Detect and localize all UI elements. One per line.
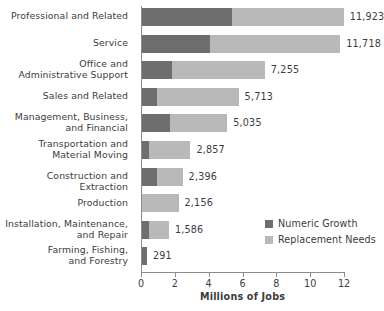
- category-label-line: Construction and Extraction: [0, 170, 128, 192]
- category-axis-labels: Professional and RelatedServiceOffice an…: [0, 0, 134, 272]
- bar-segment-replacement-needs[interactable]: [142, 194, 179, 212]
- category-label: Transportation andMaterial Moving: [0, 138, 128, 160]
- x-axis-tick-label: 8: [273, 278, 279, 289]
- bar-value-label: 2,156: [185, 197, 213, 208]
- legend-label: Replacement Needs: [278, 234, 376, 245]
- bar-segment-replacement-needs[interactable]: [170, 114, 227, 132]
- x-axis-tick-label: 12: [338, 278, 350, 289]
- category-label-line: Service: [0, 37, 128, 48]
- bar-value-label: 2,857: [196, 144, 224, 155]
- bar-value-label: 7,255: [271, 64, 299, 75]
- category-label: Service: [0, 37, 128, 48]
- x-axis-tick: [243, 272, 244, 277]
- category-label: Management, Business,and Financial: [0, 111, 128, 133]
- category-label: Construction and Extraction: [0, 170, 128, 192]
- bar-segment-replacement-needs[interactable]: [172, 61, 265, 79]
- bar-segment-numeric-growth[interactable]: [142, 8, 232, 26]
- bar-segment-numeric-growth[interactable]: [142, 114, 170, 132]
- x-axis-tick-label: 10: [304, 278, 316, 289]
- x-axis-tick-label: 6: [239, 278, 245, 289]
- category-label-line: Management, Business,: [0, 111, 128, 122]
- category-label: Farming, Fishing,and Forestry: [0, 244, 128, 266]
- category-label-line: and Forestry: [0, 255, 128, 266]
- bar-segment-replacement-needs[interactable]: [149, 141, 191, 159]
- x-axis-tick: [310, 272, 311, 277]
- legend-swatch-icon: [265, 220, 273, 228]
- bar-segment-replacement-needs[interactable]: [149, 221, 169, 239]
- category-label-line: Farming, Fishing,: [0, 244, 128, 255]
- category-label: Office andAdministrative Support: [0, 58, 128, 80]
- legend: Numeric GrowthReplacement Needs: [265, 218, 376, 250]
- bar-segment-numeric-growth[interactable]: [142, 141, 149, 159]
- x-axis: Millions of Jobs 024681012: [141, 272, 351, 311]
- bar-segment-numeric-growth[interactable]: [142, 221, 149, 239]
- legend-label: Numeric Growth: [278, 218, 358, 229]
- legend-item[interactable]: Replacement Needs: [265, 234, 376, 245]
- legend-swatch-icon: [265, 236, 273, 244]
- x-axis-tick: [141, 272, 142, 277]
- x-axis-tick-label: 4: [206, 278, 212, 289]
- bar-segment-numeric-growth[interactable]: [142, 168, 157, 186]
- category-label-line: and Financial: [0, 122, 128, 133]
- category-label: Installation, Maintenance,and Repair: [0, 218, 128, 240]
- category-label: Sales and Related: [0, 90, 128, 101]
- bar-segment-numeric-growth[interactable]: [142, 61, 172, 79]
- x-axis-tick-label: 0: [138, 278, 144, 289]
- category-label: Production: [0, 197, 128, 208]
- bar-value-label: 11,923: [350, 11, 384, 22]
- x-axis-tick: [209, 272, 210, 277]
- bar-segment-numeric-growth[interactable]: [142, 35, 210, 53]
- bar-segment-replacement-needs[interactable]: [210, 35, 341, 53]
- category-label-line: Professional and Related: [0, 10, 128, 21]
- legend-item[interactable]: Numeric Growth: [265, 218, 376, 229]
- category-label-line: Production: [0, 197, 128, 208]
- bar-segment-numeric-growth[interactable]: [142, 247, 147, 265]
- category-label-line: Administrative Support: [0, 69, 128, 80]
- bar-value-label: 1,586: [175, 224, 203, 235]
- category-label-line: Office and: [0, 58, 128, 69]
- category-label-line: Material Moving: [0, 149, 128, 160]
- bar-segment-replacement-needs[interactable]: [232, 8, 344, 26]
- bar-value-label: 291: [153, 250, 172, 261]
- x-axis-title: Millions of Jobs: [141, 291, 344, 302]
- x-axis-tick: [276, 272, 277, 277]
- bar-value-label: 5,713: [245, 91, 273, 102]
- x-axis-tick: [175, 272, 176, 277]
- bar-segment-replacement-needs[interactable]: [157, 168, 182, 186]
- bar-value-label: 11,718: [346, 38, 381, 49]
- category-label-line: Transportation and: [0, 138, 128, 149]
- bar-segment-numeric-growth[interactable]: [142, 88, 157, 106]
- bar-segment-replacement-needs[interactable]: [157, 88, 238, 106]
- bar-value-label: 2,396: [189, 171, 217, 182]
- x-axis-tick: [344, 272, 345, 277]
- category-label: Professional and Related: [0, 10, 128, 21]
- x-axis-tick-label: 2: [172, 278, 178, 289]
- bar-value-label: 5,035: [233, 117, 261, 128]
- category-label-line: Sales and Related: [0, 90, 128, 101]
- category-label-line: Installation, Maintenance,: [0, 218, 128, 229]
- category-label-line: and Repair: [0, 229, 128, 240]
